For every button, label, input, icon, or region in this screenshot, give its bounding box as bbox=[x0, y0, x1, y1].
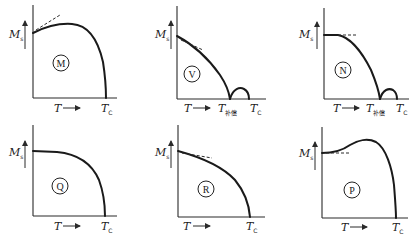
panel-label: N bbox=[339, 65, 346, 76]
tc-label: TC bbox=[250, 102, 262, 116]
tcomp-label: T补偿 bbox=[366, 102, 385, 117]
tcomp-label: T补偿 bbox=[218, 102, 237, 117]
ms-curve bbox=[324, 35, 380, 99]
t-label: T bbox=[54, 220, 63, 233]
ms-label: Ms bbox=[154, 146, 169, 160]
panel-label: Q bbox=[56, 181, 64, 192]
tc-label: TC bbox=[396, 102, 408, 116]
ms-label: Ms bbox=[8, 28, 23, 42]
magnetization-curves-figure: Ms M T TC Ms V T T补偿 TC Ms N T T bbox=[0, 0, 417, 239]
panel-q: Ms Q T TC bbox=[8, 125, 117, 234]
panel-label: V bbox=[188, 69, 196, 80]
ms-curve bbox=[33, 24, 106, 98]
panel-r: Ms R T TC bbox=[154, 125, 265, 234]
panel-m: Ms M T TC bbox=[8, 5, 117, 116]
ms-hump-curve bbox=[380, 89, 397, 99]
ms-label: Ms bbox=[298, 28, 313, 42]
t-label: T bbox=[54, 102, 63, 115]
tangent-dashed-line bbox=[181, 40, 203, 50]
panel-v: Ms V T T补偿 TC bbox=[154, 6, 266, 117]
panel-label: M bbox=[57, 58, 66, 69]
panel-p: Ms P T TC bbox=[298, 127, 408, 235]
ms-label: Ms bbox=[298, 147, 313, 161]
panel-label: R bbox=[203, 184, 210, 195]
t-label: T bbox=[184, 102, 193, 115]
ms-curve bbox=[178, 151, 250, 217]
t-label: T bbox=[333, 102, 342, 115]
ms-label: Ms bbox=[8, 146, 23, 160]
ms-label: Ms bbox=[154, 28, 169, 42]
ms-curve bbox=[177, 36, 230, 99]
tc-label: TC bbox=[246, 220, 258, 234]
t-label: T bbox=[183, 220, 192, 233]
panel-n: Ms N T T补偿 TC bbox=[298, 8, 409, 117]
ms-hump-curve bbox=[230, 88, 249, 99]
panel-label: P bbox=[349, 185, 355, 196]
ms-curve bbox=[322, 140, 396, 218]
t-label: T bbox=[341, 221, 350, 234]
tc-label: TC bbox=[101, 102, 113, 116]
tc-label: TC bbox=[392, 221, 404, 235]
ms-curve bbox=[33, 151, 105, 216]
tc-label: TC bbox=[101, 220, 113, 234]
